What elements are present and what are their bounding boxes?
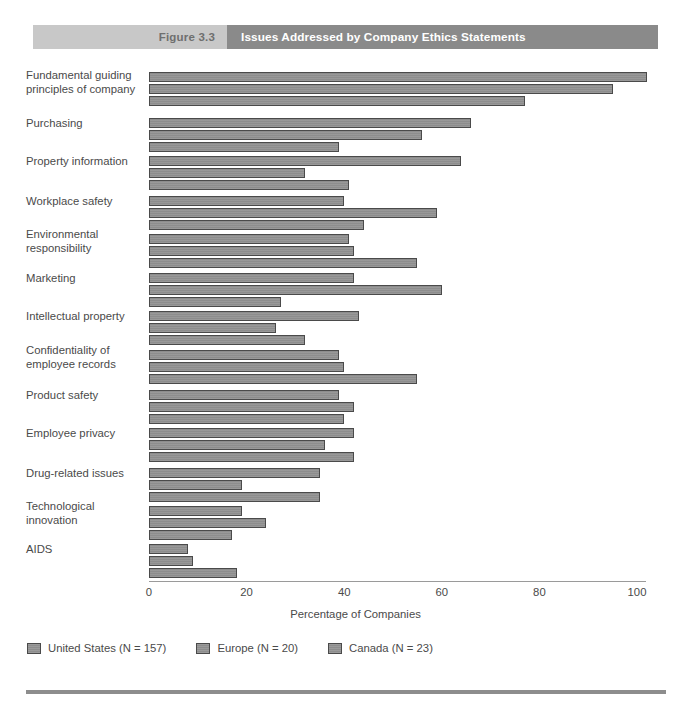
category-label: Property information bbox=[26, 155, 148, 169]
legend-item[interactable]: Europe (N = 20) bbox=[196, 642, 298, 654]
x-axis-label-text: Percentage of Companies bbox=[290, 608, 421, 620]
bar bbox=[149, 362, 344, 372]
figure-number: Figure 3.3 bbox=[33, 25, 227, 49]
bar bbox=[149, 196, 344, 206]
x-axis-label: Percentage of Companies bbox=[0, 608, 691, 620]
bar bbox=[149, 84, 613, 94]
legend-label: United States (N = 157) bbox=[48, 642, 166, 654]
bar bbox=[149, 273, 354, 283]
category-label: AIDS bbox=[26, 543, 148, 557]
bar-chart: Fundamental guidingprinciples of company… bbox=[0, 62, 691, 632]
bar bbox=[149, 468, 320, 478]
bar bbox=[149, 258, 417, 268]
legend-item[interactable]: United States (N = 157) bbox=[27, 642, 166, 654]
category-label: Employee privacy bbox=[26, 427, 148, 441]
bar bbox=[149, 246, 354, 256]
x-axis-line bbox=[149, 581, 646, 582]
bar bbox=[149, 208, 437, 218]
bar bbox=[149, 530, 232, 540]
bar bbox=[149, 402, 354, 412]
bar bbox=[149, 156, 461, 166]
bar bbox=[149, 335, 305, 345]
category-label: Technologicalinnovation bbox=[26, 500, 148, 527]
legend-swatch-icon bbox=[196, 643, 210, 654]
x-tick-label: 40 bbox=[338, 586, 351, 598]
bar bbox=[149, 168, 305, 178]
category-label: Fundamental guidingprinciples of company bbox=[26, 69, 148, 96]
plot-area bbox=[149, 68, 637, 581]
bar bbox=[149, 350, 339, 360]
x-tick-label: 20 bbox=[240, 586, 253, 598]
category-label: Workplace safety bbox=[26, 195, 148, 209]
chart-legend: United States (N = 157)Europe (N = 20)Ca… bbox=[27, 642, 463, 654]
bar bbox=[149, 234, 349, 244]
category-label: Product safety bbox=[26, 389, 148, 403]
bar bbox=[149, 506, 242, 516]
bar bbox=[149, 118, 471, 128]
figure-title: Issues Addressed by Company Ethics State… bbox=[227, 25, 658, 49]
category-label: Intellectual property bbox=[26, 310, 148, 324]
category-label: Purchasing bbox=[26, 117, 148, 131]
x-tick-label: 0 bbox=[146, 586, 152, 598]
bar bbox=[149, 480, 242, 490]
legend-label: Canada (N = 23) bbox=[349, 642, 433, 654]
x-tick-label: 100 bbox=[628, 586, 647, 598]
legend-item[interactable]: Canada (N = 23) bbox=[328, 642, 433, 654]
bar bbox=[149, 96, 525, 106]
bar bbox=[149, 297, 281, 307]
category-label: Confidentiality ofemployee records bbox=[26, 344, 148, 371]
category-label: Environmentalresponsibility bbox=[26, 228, 148, 255]
legend-label: Europe (N = 20) bbox=[217, 642, 298, 654]
bar bbox=[149, 390, 339, 400]
bar bbox=[149, 556, 193, 566]
bar bbox=[149, 72, 647, 82]
bar bbox=[149, 311, 359, 321]
footer-rule bbox=[26, 690, 666, 694]
bar bbox=[149, 374, 417, 384]
bar bbox=[149, 323, 276, 333]
bar bbox=[149, 492, 320, 502]
bar bbox=[149, 544, 188, 554]
category-label: Drug-related issues bbox=[26, 467, 148, 481]
bar bbox=[149, 285, 442, 295]
bar bbox=[149, 414, 344, 424]
bar bbox=[149, 452, 354, 462]
bar bbox=[149, 568, 237, 578]
legend-swatch-icon bbox=[328, 643, 342, 654]
bar bbox=[149, 130, 422, 140]
x-tick-label: 60 bbox=[436, 586, 449, 598]
bar bbox=[149, 518, 266, 528]
x-tick-label: 80 bbox=[533, 586, 546, 598]
category-label: Marketing bbox=[26, 272, 148, 286]
bar bbox=[149, 428, 354, 438]
bar bbox=[149, 142, 339, 152]
bar bbox=[149, 440, 325, 450]
figure-header: Figure 3.3 Issues Addressed by Company E… bbox=[33, 25, 658, 49]
bar bbox=[149, 180, 349, 190]
bar bbox=[149, 220, 364, 230]
legend-swatch-icon bbox=[27, 643, 41, 654]
